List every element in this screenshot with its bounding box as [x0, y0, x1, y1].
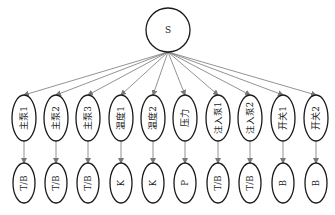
- node-label: 温度1: [115, 106, 126, 130]
- root-node: S: [146, 8, 190, 52]
- node-label: 开关2: [310, 106, 321, 130]
- child-nodes: 主泵1T/B主泵2T/B主泵3T/B温度1K温度2K压力P注入泵1T/B注入泵2…: [12, 95, 328, 203]
- edge-root-to-node: [56, 52, 168, 95]
- root-label: S: [165, 25, 171, 35]
- type-label: K: [116, 179, 126, 186]
- node-label: 压力: [179, 109, 190, 127]
- edge-root-to-node: [168, 52, 316, 95]
- type-label: T/B: [245, 176, 255, 191]
- type-label: P: [180, 180, 190, 186]
- node-label: 主泵3: [82, 106, 93, 130]
- edge-root-to-node: [168, 52, 283, 95]
- node-label: 注入泵1: [213, 102, 223, 134]
- type-label: B: [278, 180, 288, 186]
- type-label: T/B: [83, 176, 93, 191]
- edge-root-to-node: [24, 52, 168, 95]
- tree-diagram: S 主泵1T/B主泵2T/B主泵3T/B温度1K温度2K压力P注入泵1T/B注入…: [0, 0, 335, 215]
- type-label: T/B: [51, 176, 61, 191]
- type-label: T/B: [213, 176, 223, 191]
- node-label: 主泵1: [18, 106, 29, 130]
- node-label: 注入泵2: [245, 102, 255, 134]
- edge-root-to-node: [168, 52, 218, 95]
- edge-root-to-node: [168, 52, 185, 95]
- type-label: K: [148, 179, 158, 186]
- node-label: 开关1: [277, 106, 288, 130]
- type-label: T/B: [19, 176, 29, 191]
- node-label: 主泵2: [50, 106, 61, 130]
- type-label: B: [311, 180, 321, 186]
- edge-root-to-node: [168, 52, 250, 95]
- node-label: 温度2: [147, 106, 158, 130]
